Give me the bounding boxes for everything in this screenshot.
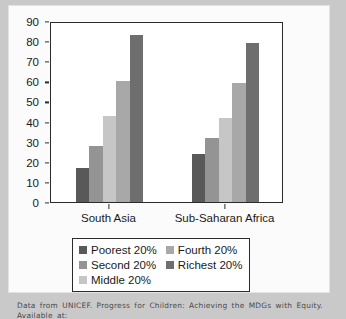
- x-tick-mark: [224, 204, 225, 209]
- bar-groups: [51, 23, 282, 202]
- legend-label: Fourth 20%: [178, 243, 237, 257]
- bar-gap: [145, 201, 190, 202]
- y-tick-label: 40: [26, 117, 39, 128]
- y-tick-label: 0: [33, 198, 39, 209]
- y-tick-mark: [45, 182, 49, 183]
- figure-container: 0102030405060708090 South AsiaSub-Sahara…: [0, 0, 346, 319]
- bar: [246, 43, 260, 202]
- y-tick-mark: [45, 142, 49, 143]
- legend-swatch: [79, 261, 87, 269]
- y-tick-mark: [45, 62, 49, 63]
- legend-item: Richest 20%: [166, 258, 243, 272]
- y-tick-mark: [45, 202, 49, 203]
- y-tick-mark: [45, 82, 49, 83]
- bar: [116, 81, 130, 202]
- legend-swatch: [166, 246, 174, 254]
- legend-item: Middle 20%: [79, 273, 157, 287]
- y-tick-label: 90: [26, 17, 39, 28]
- bar-group: [74, 23, 145, 202]
- x-axis: South AsiaSub-Saharan Africa: [50, 204, 283, 230]
- bar: [89, 146, 103, 202]
- bar: [205, 138, 219, 202]
- y-tick-label: 20: [26, 157, 39, 168]
- source-caption: Data from UNICEF. Progress for Children:…: [17, 301, 329, 319]
- legend-label: Second 20%: [91, 258, 156, 272]
- x-tick-mark: [108, 204, 109, 209]
- legend-item: Fourth 20%: [166, 243, 243, 257]
- x-tick-label: South Asia: [81, 212, 136, 224]
- y-tick-mark: [45, 122, 49, 123]
- bar-group: [190, 23, 261, 202]
- bar: [76, 168, 90, 202]
- legend-label: Poorest 20%: [91, 243, 157, 257]
- plot-area: [50, 22, 283, 203]
- y-tick-label: 30: [26, 137, 39, 148]
- y-tick-label: 10: [26, 177, 39, 188]
- bar-gap: [51, 201, 74, 202]
- legend-swatch: [166, 261, 174, 269]
- y-tick-label: 80: [26, 37, 39, 48]
- chart-legend: Poorest 20%Fourth 20%Second 20%Richest 2…: [72, 238, 250, 292]
- y-tick-label: 50: [26, 97, 39, 108]
- bar: [232, 83, 246, 202]
- bar: [103, 116, 117, 202]
- y-tick-label: 70: [26, 57, 39, 68]
- y-axis: 0102030405060708090: [9, 16, 47, 209]
- y-tick-mark: [45, 42, 49, 43]
- bar: [192, 154, 206, 202]
- legend-label: Richest 20%: [178, 258, 243, 272]
- legend-swatch: [79, 276, 87, 284]
- y-tick-mark: [45, 21, 49, 22]
- legend-item: Poorest 20%: [79, 243, 157, 257]
- x-tick-label: Sub-Saharan Africa: [175, 212, 275, 224]
- chart-panel: 0102030405060708090 South AsiaSub-Sahara…: [8, 5, 330, 293]
- legend-label: Middle 20%: [91, 273, 151, 287]
- legend-swatch: [79, 246, 87, 254]
- bar: [130, 35, 144, 202]
- caption-band: Data from UNICEF. Progress for Children:…: [0, 296, 346, 319]
- legend-item: Second 20%: [79, 258, 157, 272]
- y-tick-label: 60: [26, 77, 39, 88]
- y-tick-mark: [45, 162, 49, 163]
- legend-grid: Poorest 20%Fourth 20%Second 20%Richest 2…: [79, 243, 242, 287]
- y-tick-mark: [45, 102, 49, 103]
- bar: [219, 118, 233, 202]
